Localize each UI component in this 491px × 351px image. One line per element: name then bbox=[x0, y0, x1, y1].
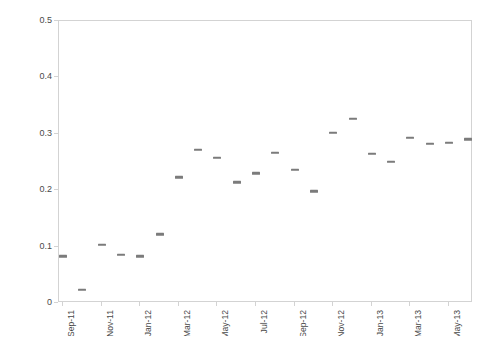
x-tick-mark bbox=[62, 302, 63, 306]
data-point-marker bbox=[213, 157, 221, 159]
x-tick-label: Nov-11 bbox=[105, 310, 115, 337]
data-point-marker bbox=[387, 161, 395, 163]
x-tick-mark bbox=[448, 302, 449, 306]
x-tick-label: May-13 bbox=[452, 310, 462, 339]
data-point-marker bbox=[349, 117, 357, 119]
plot-area bbox=[58, 20, 472, 302]
x-tick-label: Sep-12 bbox=[298, 310, 308, 338]
x-tick-label: Jan-13 bbox=[375, 310, 385, 336]
scan-noise-band bbox=[0, 336, 491, 351]
chart-screenshot: Blog views (proportion of total website … bbox=[0, 0, 491, 351]
y-tick-label: 0.1 bbox=[4, 241, 52, 251]
data-point-marker bbox=[291, 169, 299, 171]
y-tick-label: 0.2 bbox=[4, 184, 52, 194]
data-point-marker bbox=[59, 255, 67, 257]
x-tick-label: Sep-11 bbox=[66, 310, 76, 337]
x-tick-mark bbox=[178, 302, 179, 306]
x-tick-mark bbox=[409, 302, 410, 306]
data-point-marker bbox=[156, 233, 164, 235]
x-tick-mark bbox=[255, 302, 256, 306]
x-tick-mark bbox=[216, 302, 217, 306]
y-tick-label: 0.5 bbox=[4, 15, 52, 25]
y-tick-label: 0 bbox=[4, 297, 52, 307]
data-point-marker bbox=[271, 152, 279, 154]
y-tick-mark bbox=[54, 302, 58, 303]
x-tick-mark bbox=[371, 302, 372, 306]
data-point-marker bbox=[78, 289, 86, 291]
x-tick-mark bbox=[101, 302, 102, 306]
x-tick-label: Nov-12 bbox=[336, 310, 346, 338]
data-point-marker bbox=[464, 138, 472, 140]
x-tick-label: Jul-12 bbox=[259, 310, 269, 333]
data-point-marker bbox=[329, 131, 337, 133]
x-tick-label: Jan-12 bbox=[143, 310, 153, 336]
x-tick-mark bbox=[332, 302, 333, 306]
data-point-marker bbox=[368, 153, 376, 155]
x-tick-mark bbox=[294, 302, 295, 306]
x-tick-label: Mar-13 bbox=[413, 310, 423, 337]
y-axis-tick-labels: 00.10.20.30.40.5 bbox=[0, 20, 52, 302]
data-point-marker bbox=[175, 176, 183, 178]
data-point-marker bbox=[136, 255, 144, 257]
x-tick-label: May-12 bbox=[220, 310, 230, 339]
data-point-marker bbox=[194, 148, 202, 150]
data-point-marker bbox=[98, 244, 106, 246]
data-point-marker bbox=[233, 181, 241, 183]
y-tick-label: 0.4 bbox=[4, 71, 52, 81]
data-point-marker bbox=[426, 143, 434, 145]
data-point-marker bbox=[406, 137, 414, 139]
x-tick-mark bbox=[139, 302, 140, 306]
data-point-marker bbox=[117, 254, 125, 256]
x-tick-label: Mar-12 bbox=[182, 310, 192, 337]
data-point-marker bbox=[252, 172, 260, 174]
data-point-marker bbox=[310, 190, 318, 192]
y-tick-label: 0.3 bbox=[4, 128, 52, 138]
data-point-marker bbox=[445, 142, 453, 144]
